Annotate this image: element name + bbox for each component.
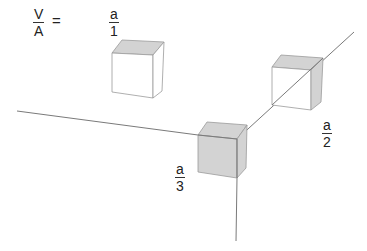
cube-3	[198, 122, 247, 178]
label-numerator: a	[322, 118, 332, 132]
label-numerator: a	[175, 162, 185, 176]
cube-3-front-face	[198, 135, 237, 178]
formula-numerator: V	[33, 7, 44, 21]
cube-1-front-face	[112, 53, 153, 98]
axis-line-vertical	[236, 178, 237, 241]
label-denominator: 3	[175, 179, 185, 193]
formula-lhs-fraction: V A	[33, 7, 44, 38]
axis-line-left	[17, 111, 198, 135]
formula-equals: =	[52, 13, 61, 28]
cube-2-front-face	[272, 67, 311, 110]
formula-denominator: A	[33, 24, 44, 38]
label-a-over-2: a 2	[322, 118, 332, 149]
label-a-over-1: a 1	[109, 7, 119, 38]
label-denominator: 2	[322, 135, 332, 149]
cube-1	[112, 40, 164, 98]
label-denominator: 1	[109, 24, 119, 38]
cube-2	[272, 55, 323, 110]
label-a-over-3: a 3	[175, 162, 185, 193]
diagram-canvas	[0, 0, 367, 251]
label-numerator: a	[109, 7, 119, 21]
